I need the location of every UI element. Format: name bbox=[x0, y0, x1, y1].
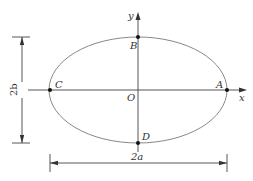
x-axis-label: x bbox=[239, 92, 245, 103]
horizontal-dimension: 2a bbox=[50, 151, 227, 172]
arrow-left-icon bbox=[50, 161, 58, 165]
point-d-label: D bbox=[141, 131, 150, 142]
ellipse-diagram: x y O A B C D 2b 2a bbox=[0, 0, 253, 181]
point-b bbox=[136, 35, 140, 39]
point-a bbox=[225, 88, 229, 92]
arrow-up-icon bbox=[20, 37, 24, 45]
vertical-dimension: 2b bbox=[8, 37, 30, 143]
point-c-label: C bbox=[55, 79, 63, 90]
point-b-label: B bbox=[129, 40, 137, 51]
y-axis-arrow-icon bbox=[136, 12, 141, 20]
point-d bbox=[136, 141, 140, 145]
origin-label: O bbox=[127, 92, 135, 103]
point-a-label: A bbox=[215, 79, 223, 90]
arrow-right-icon bbox=[219, 161, 227, 165]
y-axis-label: y bbox=[127, 10, 134, 21]
dimension-2b-label: 2b bbox=[8, 83, 19, 96]
arrow-down-icon bbox=[20, 135, 24, 143]
point-c bbox=[48, 88, 52, 92]
dimension-2a-label: 2a bbox=[130, 151, 143, 162]
